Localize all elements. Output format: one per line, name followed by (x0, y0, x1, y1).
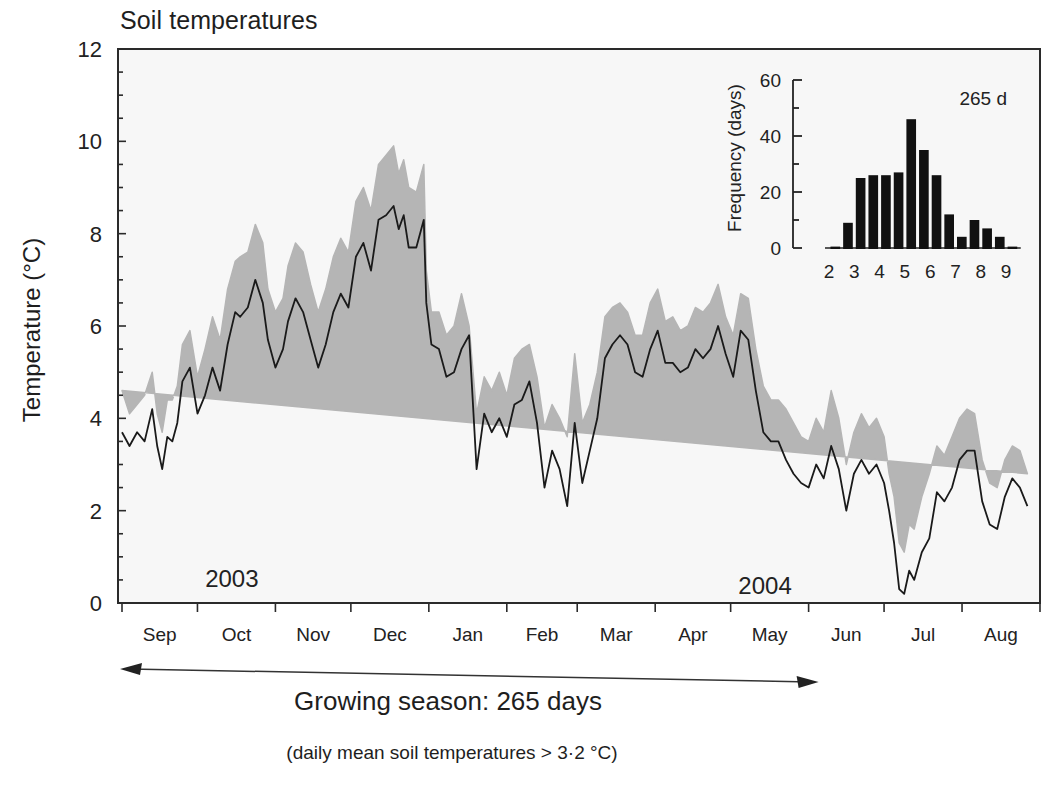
inset-y-tick-label: 60 (760, 70, 781, 91)
inset-histogram-bar (932, 175, 942, 249)
inset-y-tick-label: 0 (770, 238, 781, 259)
y-tick-label: 12 (78, 37, 102, 62)
inset-histogram-bar (843, 223, 853, 249)
inset-histogram-bar (1008, 247, 1018, 249)
x-month-label: Sep (143, 624, 177, 645)
inset-y-axis-label: Frequency (days) (724, 84, 745, 232)
chart-title: Soil temperatures (120, 6, 318, 35)
inset-x-tick-label: 8 (976, 261, 987, 282)
year-label: 2004 (738, 572, 791, 599)
x-month-label: May (752, 624, 788, 645)
x-month-label: Jul (911, 624, 935, 645)
y-axis-label: Temperature (°C) (18, 238, 46, 422)
inset-histogram-bar (944, 214, 954, 249)
y-tick-label: 8 (90, 222, 102, 247)
growing-season-note: (daily mean soil temperatures > 3·2 °C) (286, 742, 617, 764)
inset-histogram-bar (970, 220, 980, 249)
arrow-head-right-icon (797, 676, 819, 688)
inset-histogram-bar (982, 228, 992, 249)
inset-x-tick-label: 9 (1001, 261, 1012, 282)
inset-histogram-bar (868, 175, 878, 249)
inset-x-tick-label: 3 (849, 261, 860, 282)
inset-x-tick-label: 2 (824, 261, 835, 282)
x-month-label: Mar (600, 624, 633, 645)
x-month-label: Nov (296, 624, 330, 645)
growing-season-arrow (120, 663, 819, 688)
inset-histogram-bar (995, 237, 1005, 249)
inset-histogram-bar (894, 172, 904, 249)
x-month-label: Aug (984, 624, 1018, 645)
x-month-label: Jan (453, 624, 484, 645)
soil-temperature-figure: 024681012 SepOctNovDecJanFebMarAprMayJun… (0, 0, 1055, 786)
inset-y-tick-label: 40 (760, 126, 781, 147)
x-month-label: Dec (373, 624, 407, 645)
inset-histogram-bar (919, 150, 929, 249)
inset-x-tick-label: 7 (950, 261, 961, 282)
y-tick-label: 0 (90, 591, 102, 616)
inset-histogram-bar (856, 178, 866, 249)
inset-x-tick-label: 4 (874, 261, 885, 282)
inset-histogram-bar (957, 237, 967, 249)
inset-histogram-bar (881, 175, 891, 249)
growing-season-label: Growing season: 265 days (294, 686, 602, 717)
arrow-shaft (130, 669, 811, 682)
chart-canvas: 024681012 SepOctNovDecJanFebMarAprMayJun… (0, 0, 1055, 786)
inset-y-tick-label: 20 (760, 182, 781, 203)
inset-x-tick-label: 5 (900, 261, 911, 282)
y-tick-label: 2 (90, 499, 102, 524)
inset-total-days-label: 265 d (959, 88, 1007, 109)
y-tick-label: 6 (90, 314, 102, 339)
x-month-label: Feb (526, 624, 559, 645)
x-axis: SepOctNovDecJanFebMarAprMayJunJulAug (122, 603, 1040, 645)
inset-x-tick-label: 6 (925, 261, 936, 282)
y-tick-label: 4 (90, 406, 102, 431)
x-month-label: Apr (678, 624, 708, 645)
inset-histogram-bar (831, 247, 841, 249)
x-month-label: Jun (831, 624, 862, 645)
y-tick-label: 10 (78, 129, 102, 154)
arrow-head-left-icon (120, 663, 142, 675)
year-label: 2003 (205, 565, 258, 592)
x-month-label: Oct (222, 624, 252, 645)
inset-histogram-bar (906, 119, 916, 249)
